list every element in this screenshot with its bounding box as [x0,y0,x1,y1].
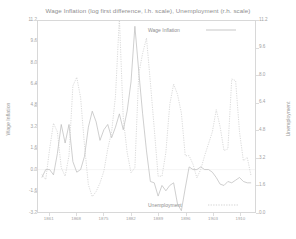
series-line-wage-inflation [42,26,251,210]
y-tick-mark-left [34,213,37,214]
legend-swatch-solid-line [206,28,236,32]
chart-title: Wage Inflation (log first difference, l.… [0,7,296,14]
y-tick-label-right: 3.2 [259,156,265,161]
chart-container: Wage Inflation (log first difference, l.… [0,0,296,239]
x-tick-label: 1875 [99,217,109,221]
y-axis-right-title: Unemployment [285,89,291,149]
series-line-unemployment [42,21,251,197]
x-tick-label: 1910 [235,217,245,221]
x-tick-mark [76,213,77,216]
x-tick-label: 1861 [44,217,54,221]
plot-area [37,20,256,213]
x-tick-label: 1882 [126,217,136,221]
x-tick-label: 1903 [208,217,218,221]
y-tick-label-right: 6.4 [259,100,265,105]
x-tick-mark [131,213,132,216]
x-tick-mark [158,213,159,216]
y-tick-mark-right [256,20,259,21]
series-lines [38,21,255,212]
legend-swatch-dotted-line [208,203,238,207]
y-tick-mark-right [256,103,259,104]
y-axis-left-title: Wage Inflation [5,89,11,149]
y-tick-label-right: 1.6 [259,183,265,188]
x-tick-mark [213,213,214,216]
x-tick-label: 1896 [181,217,191,221]
x-tick-label: 1889 [153,217,163,221]
y-tick-label-right: 4.8 [259,128,265,133]
legend-wage-inflation: Wage Inflation [148,27,236,33]
y-tick-label-right: 0.0 [259,211,265,216]
y-tick-label-right: 11.2 [259,18,268,23]
y-tick-label-right: 8.0 [259,73,265,78]
y-tick-mark-right [256,130,259,131]
y-tick-mark-right [256,185,259,186]
y-tick-mark-right [256,158,259,159]
x-tick-mark [240,213,241,216]
x-tick-mark [186,213,187,216]
x-tick-mark [103,213,104,216]
y-tick-mark-right [256,75,259,76]
x-tick-mark [49,213,50,216]
y-tick-label-right: 9.6 [259,45,265,50]
legend-unemployment: Unemployment [148,202,238,208]
y-tick-mark-right [256,213,259,214]
y-tick-mark-right [256,48,259,49]
legend-label-wage-inflation: Wage Inflation [148,27,180,33]
legend-label-unemployment: Unemployment [148,202,182,208]
x-tick-label: 1868 [71,217,81,221]
